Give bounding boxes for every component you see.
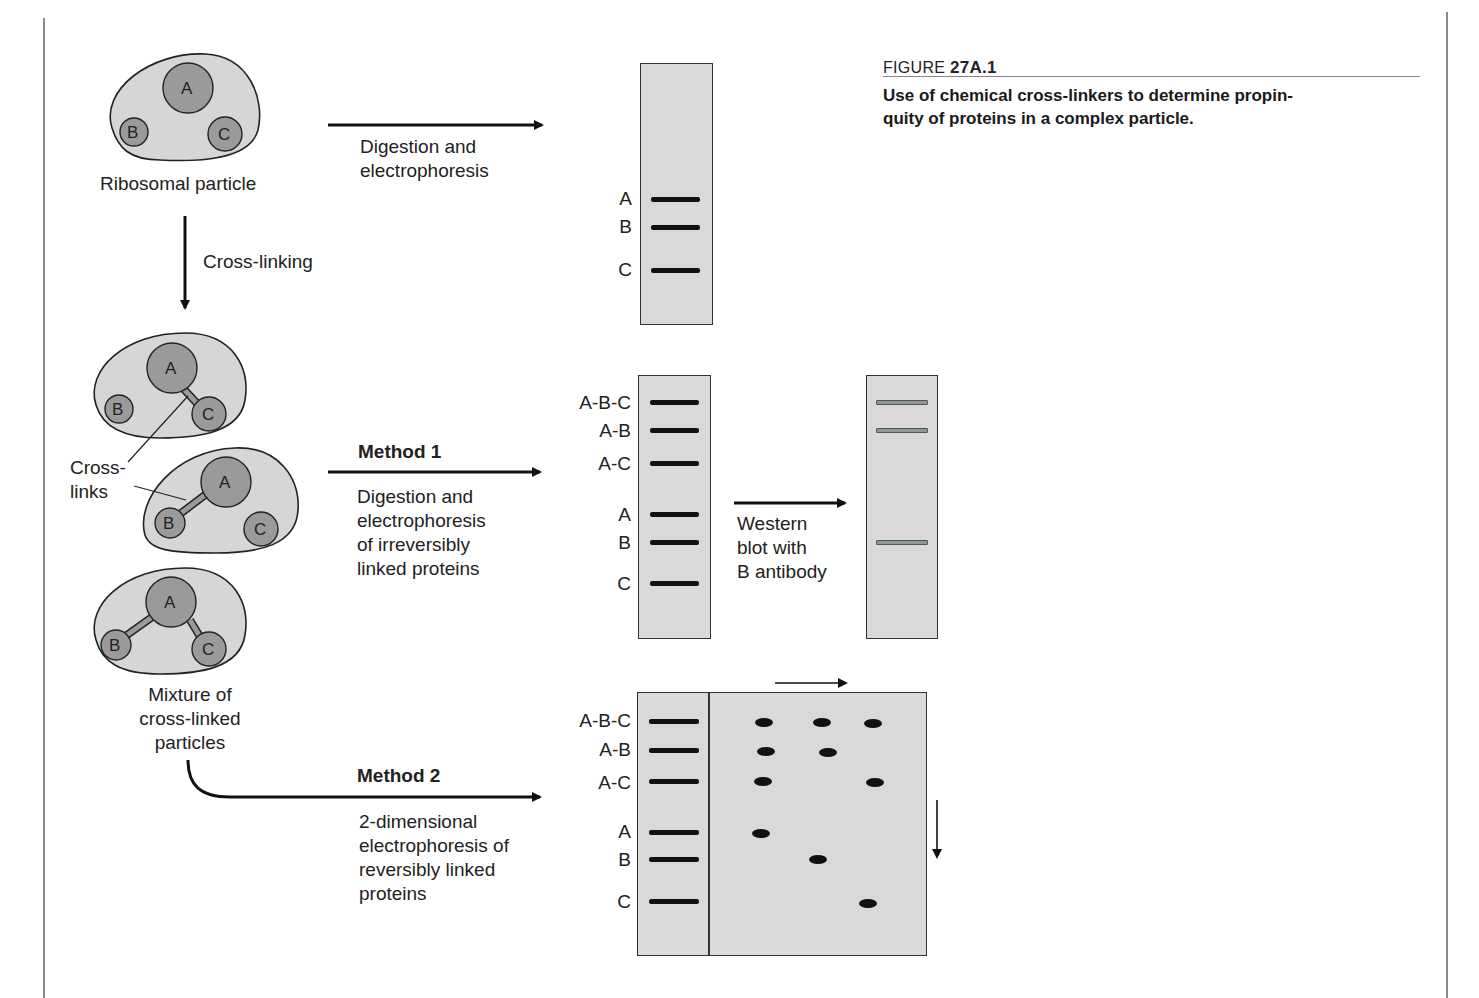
spot-abc-a — [755, 718, 773, 727]
protein-label-b: B — [112, 398, 123, 422]
protein-label-c: C — [254, 518, 266, 542]
gel-band — [649, 830, 699, 835]
gel-band — [650, 512, 699, 517]
m2-label-ac: A-C — [550, 771, 631, 795]
digestion-label-1: Digestion and — [360, 135, 476, 159]
m1-label-ac: A-C — [550, 452, 631, 476]
top-gel-label-a: A — [560, 187, 632, 211]
western-label-1: Western — [737, 512, 807, 536]
spot-ab-b — [819, 748, 837, 757]
spot-b — [809, 855, 827, 864]
gel-band — [651, 268, 700, 273]
spot-c — [859, 899, 877, 908]
protein-label-b: B — [163, 512, 174, 536]
method1-desc-4: linked proteins — [357, 557, 480, 581]
m2-label-abc: A-B-C — [550, 709, 631, 733]
crosslinked-particle-ab — [143, 448, 298, 553]
gel-band — [649, 779, 699, 784]
protein-label-a: A — [219, 471, 230, 495]
gel-2d — [637, 692, 927, 956]
western-label-3: B antibody — [737, 560, 827, 584]
m2-label-ab: A-B — [550, 738, 631, 762]
gel-band — [649, 857, 699, 862]
method2-desc-4: proteins — [359, 882, 427, 906]
top-gel-label-b: B — [560, 215, 632, 239]
top-gel-label-c: C — [560, 258, 632, 282]
cross-linking-label: Cross-linking — [203, 250, 313, 274]
gel-band — [650, 428, 699, 433]
m1-label-ab: A-B — [550, 419, 631, 443]
mixture-label-2: cross-linked — [90, 707, 290, 731]
gel-band — [650, 461, 699, 466]
spot-ac-a — [754, 777, 772, 786]
ribosomal-particle-label: Ribosomal particle — [100, 172, 256, 196]
m1-label-b: B — [550, 531, 631, 555]
spot-ac-c — [866, 778, 884, 787]
gel-uncrosslinked — [640, 63, 713, 325]
method1-desc-1: Digestion and — [357, 485, 473, 509]
crosslinks-label-1: Cross- — [70, 456, 126, 480]
mixture-label-3: particles — [90, 731, 290, 755]
crosslinked-particle-ac — [94, 333, 246, 438]
protein-label-c: C — [202, 403, 214, 427]
spot-abc-b — [813, 718, 831, 727]
gel-band — [650, 540, 699, 545]
gel-western-blot — [866, 375, 938, 639]
method1-title: Method 1 — [358, 440, 441, 464]
method2-desc-2: electrophoresis of — [359, 834, 509, 858]
m1-label-a: A — [550, 503, 631, 527]
crosslinked-particle-abc — [94, 568, 246, 674]
spot-a — [752, 829, 770, 838]
western-label-2: blot with — [737, 536, 807, 560]
protein-label-b: B — [109, 634, 120, 658]
mixture-label-1: Mixture of — [90, 683, 290, 707]
gel-band — [651, 225, 700, 230]
spot-ab-a — [757, 747, 775, 756]
gel-band — [649, 899, 699, 904]
protein-label-b: B — [127, 121, 138, 145]
gel-band — [649, 719, 699, 724]
gel-method1 — [638, 375, 711, 639]
gel-band — [650, 400, 699, 405]
gel-2d-divider — [708, 693, 710, 955]
m1-label-abc: A-B-C — [550, 391, 631, 415]
protein-label-c: C — [218, 123, 230, 147]
protein-label-a: A — [164, 591, 175, 615]
gel-band — [651, 197, 700, 202]
m2-label-b: B — [550, 848, 631, 872]
m2-label-c: C — [550, 890, 631, 914]
spot-abc-c — [864, 719, 882, 728]
western-band-abc — [876, 400, 928, 405]
method1-desc-3: of irreversibly — [357, 533, 470, 557]
gel-band — [650, 581, 699, 586]
protein-label-a: A — [165, 357, 176, 381]
gel-band — [649, 748, 699, 753]
method2-title: Method 2 — [357, 764, 440, 788]
digestion-label-2: electrophoresis — [360, 159, 489, 183]
protein-label-a: A — [181, 77, 192, 101]
protein-label-c: C — [202, 638, 214, 662]
method2-desc-1: 2-dimensional — [359, 810, 477, 834]
western-band-b — [876, 540, 928, 545]
method2-desc-3: reversibly linked — [359, 858, 495, 882]
western-band-ab — [876, 428, 928, 433]
m2-label-a: A — [550, 820, 631, 844]
crosslinks-label-2: links — [70, 480, 108, 504]
method1-desc-2: electrophoresis — [357, 509, 486, 533]
m1-label-c: C — [550, 572, 631, 596]
